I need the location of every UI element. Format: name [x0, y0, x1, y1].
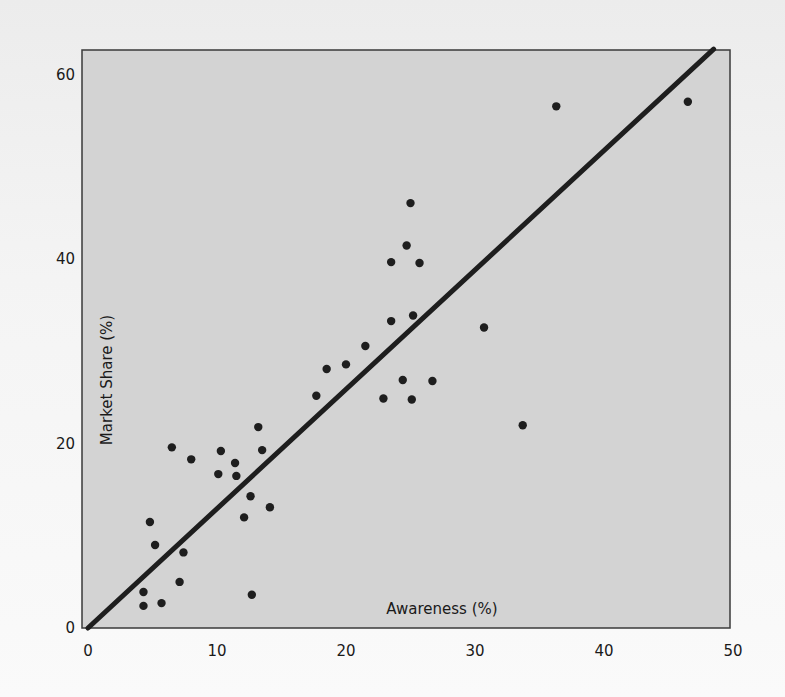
data-point — [157, 599, 165, 607]
data-point — [312, 392, 320, 400]
data-point — [387, 317, 395, 325]
data-point — [415, 259, 423, 267]
x-tick-label: 20 — [336, 642, 355, 660]
data-point — [231, 459, 239, 467]
x-tick-label: 40 — [594, 642, 613, 660]
data-point — [179, 548, 187, 556]
data-point — [254, 423, 262, 431]
data-point — [187, 455, 195, 463]
data-point — [151, 541, 159, 549]
y-tick-label: 0 — [65, 619, 75, 637]
data-point — [139, 588, 147, 596]
data-point — [146, 518, 154, 526]
data-point — [246, 492, 254, 500]
data-point — [214, 470, 222, 478]
data-point — [342, 360, 350, 368]
data-point — [684, 98, 692, 106]
y-tick-label: 40 — [56, 250, 75, 268]
data-point — [428, 377, 436, 385]
data-point — [408, 395, 416, 403]
data-point — [519, 421, 527, 429]
data-point — [175, 578, 183, 586]
data-point — [240, 513, 248, 521]
data-point — [322, 365, 330, 373]
data-point — [139, 602, 147, 610]
data-point — [258, 446, 266, 454]
data-point — [266, 503, 274, 511]
data-point — [399, 376, 407, 384]
x-tick-label: 10 — [207, 642, 226, 660]
data-point — [409, 311, 417, 319]
x-axis-label: Awareness (%) — [386, 600, 497, 618]
data-point — [168, 443, 176, 451]
y-tick-label: 20 — [56, 435, 75, 453]
y-axis-label: Market Share (%) — [98, 315, 116, 445]
data-point — [217, 447, 225, 455]
data-point — [232, 472, 240, 480]
x-tick-label: 50 — [723, 642, 742, 660]
x-tick-label: 0 — [83, 642, 93, 660]
data-point — [248, 591, 256, 599]
data-point — [402, 241, 410, 249]
x-axis-ticks: 01020304050 — [83, 642, 742, 660]
scatter-chart: 01020304050 0204060 Awareness (%) Market… — [0, 0, 785, 697]
y-tick-label: 60 — [56, 66, 75, 84]
data-point — [387, 258, 395, 266]
data-point — [379, 394, 387, 402]
data-point — [552, 102, 560, 110]
data-point — [480, 323, 488, 331]
y-axis-ticks: 0204060 — [56, 66, 75, 637]
x-tick-label: 30 — [465, 642, 484, 660]
data-point — [361, 342, 369, 350]
data-point — [406, 199, 414, 207]
